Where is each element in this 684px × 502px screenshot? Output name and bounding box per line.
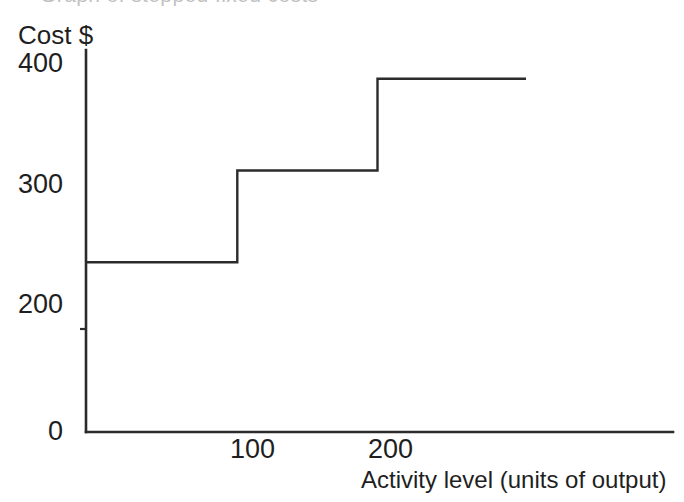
step-cost-line — [86, 79, 526, 262]
y-tick-label-300: 300 — [18, 171, 63, 198]
y-tick-label-0: 0 — [48, 418, 63, 445]
y-tick-label-400: 400 — [18, 50, 63, 77]
chart-page: Graph of stepped fixed costs 400 300 200… — [0, 0, 684, 502]
step-cost-series — [86, 79, 526, 262]
step-cost-chart — [0, 0, 684, 502]
y-axis-title: Cost $ — [18, 22, 93, 48]
x-tick-label-200: 200 — [368, 436, 413, 463]
x-tick-label-100: 100 — [230, 436, 275, 463]
y-tick-label-200: 200 — [18, 291, 63, 318]
x-axis-title: Activity level (units of output) — [361, 468, 666, 492]
